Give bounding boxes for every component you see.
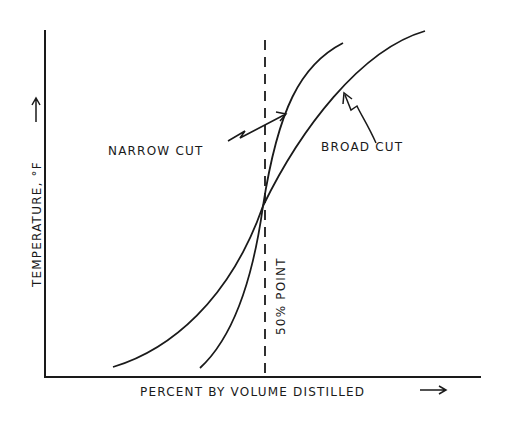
narrow-cut-curve [200, 43, 343, 368]
broad-cut-pointer-arrow [345, 95, 376, 143]
x-axis-arrow-icon [420, 386, 446, 394]
x-axis-label: PERCENT BY VOLUME DISTILLED [140, 385, 365, 399]
y-axis-arrow-icon [32, 98, 40, 122]
distillation-chart: NARROW CUT BROAD CUT 50% POINT PERCENT B… [0, 0, 511, 423]
narrow-cut-pointer-arrow [228, 115, 284, 141]
broad-cut-curve [113, 31, 425, 367]
fifty-percent-label: 50% POINT [274, 257, 288, 335]
broad-cut-label: BROAD CUT [321, 140, 403, 154]
y-axis-label: TEMPERATURE, °F [30, 161, 44, 288]
narrow-cut-label: NARROW CUT [108, 144, 203, 158]
